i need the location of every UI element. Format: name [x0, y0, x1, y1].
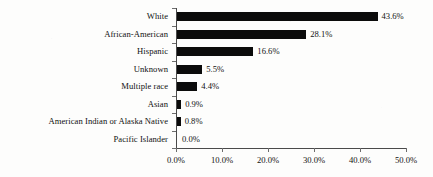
- category-label: American Indian or Alaska Native: [0, 116, 172, 126]
- bar-row: 16.6%: [177, 47, 407, 56]
- y-axis-tick: [172, 78, 176, 79]
- category-axis-labels: WhiteAfrican-AmericanHispanicUnknownMult…: [0, 0, 172, 148]
- bar-row: 0.8%: [177, 117, 407, 126]
- bar-value-label: 0.0%: [182, 134, 200, 145]
- y-axis-tick: [172, 43, 176, 44]
- x-axis-line: [176, 148, 406, 149]
- bar-row: 43.6%: [177, 12, 407, 21]
- x-axis-tick: [268, 148, 269, 152]
- bar: [177, 100, 181, 109]
- y-axis-tick: [172, 26, 176, 27]
- category-label: Unknown: [0, 64, 172, 74]
- x-axis-tick-label: 10.0%: [211, 155, 233, 165]
- x-axis-tick-label: 20.0%: [257, 155, 279, 165]
- bar-value-label: 4.4%: [201, 81, 219, 92]
- bar: [177, 65, 202, 74]
- bar-row: 28.1%: [177, 30, 407, 39]
- x-axis-tick-label: 0.0%: [167, 155, 185, 165]
- x-axis-tick-label: 40.0%: [349, 155, 371, 165]
- x-axis-tick: [314, 148, 315, 152]
- y-axis-tick: [172, 61, 176, 62]
- bar-value-label: 0.9%: [185, 99, 203, 110]
- bar-value-label: 0.8%: [185, 116, 203, 127]
- category-label: Asian: [0, 99, 172, 109]
- bar-row: 0.9%: [177, 100, 407, 109]
- x-axis-tick-label: 30.0%: [303, 155, 325, 165]
- y-axis-tick: [172, 8, 176, 9]
- bar-row: 4.4%: [177, 82, 407, 91]
- category-label: Multiple race: [0, 81, 172, 91]
- bar-value-label: 28.1%: [310, 29, 332, 40]
- y-axis-tick: [172, 113, 176, 114]
- category-label: Pacific Islander: [0, 134, 172, 144]
- bar-value-label: 5.5%: [206, 64, 224, 75]
- bar: [177, 12, 378, 21]
- bar: [177, 82, 197, 91]
- x-axis-tick: [176, 148, 177, 152]
- x-axis-tick: [360, 148, 361, 152]
- bar: [177, 47, 253, 56]
- plot-area: 43.6%28.1%16.6%5.5%4.4%0.9%0.8%0.0% 0.0%…: [176, 8, 406, 148]
- bar: [177, 117, 181, 126]
- category-label: African-American: [0, 29, 172, 39]
- x-axis-tick: [406, 148, 407, 152]
- bar: [177, 30, 306, 39]
- bar-chart: WhiteAfrican-AmericanHispanicUnknownMult…: [0, 0, 433, 177]
- y-axis-tick: [172, 96, 176, 97]
- bar-value-label: 43.6%: [382, 11, 404, 22]
- bar-row: 0.0%: [177, 135, 407, 144]
- category-label: White: [0, 11, 172, 21]
- bar-value-label: 16.6%: [257, 46, 279, 57]
- category-label: Hispanic: [0, 46, 172, 56]
- x-axis-tick: [222, 148, 223, 152]
- bar-row: 5.5%: [177, 65, 407, 74]
- x-axis-tick-label: 50.0%: [395, 155, 417, 165]
- y-axis-tick: [172, 131, 176, 132]
